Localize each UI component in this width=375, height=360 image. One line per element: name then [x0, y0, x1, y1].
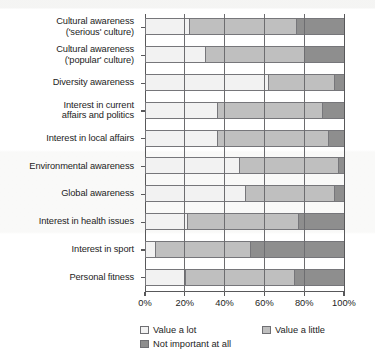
legend-item[interactable]: Not important at all — [140, 339, 231, 349]
bar-segment[interactable] — [239, 157, 340, 174]
gridline-60 — [264, 14, 265, 292]
bar-segment[interactable] — [145, 18, 190, 35]
bar-segment[interactable] — [322, 102, 345, 119]
x-axis-label-80: 80% — [284, 298, 324, 308]
bar-segment[interactable] — [185, 269, 295, 286]
x-axis-tick-100 — [343, 292, 344, 296]
bar-row[interactable] — [145, 185, 344, 202]
legend-label: Value a lot — [153, 325, 196, 335]
y-axis-label: Personal fitness — [69, 272, 134, 283]
y-axis-label: Interest in health issues — [39, 216, 134, 227]
y-axis-label: Interest in local affairs — [46, 133, 134, 144]
gridline-80 — [304, 14, 305, 292]
bar-segment[interactable] — [145, 130, 218, 147]
bar-segment[interactable] — [155, 241, 252, 258]
bar-segment[interactable] — [145, 102, 218, 119]
gridline-100 — [344, 14, 345, 292]
legend-item[interactable]: Value a lot — [140, 325, 196, 335]
y-axis-label-line: Interest in current — [62, 100, 134, 111]
bar-segment[interactable] — [245, 185, 336, 202]
y-axis-label: Interest in sport — [72, 244, 134, 255]
bar-segment[interactable] — [145, 185, 246, 202]
x-axis-label-40: 40% — [205, 298, 245, 308]
x-axis-label-20: 20% — [165, 298, 205, 308]
y-axis-label: Interest in currentaffairs and politics — [62, 100, 134, 121]
bar-segment[interactable] — [145, 46, 206, 63]
bar-row[interactable] — [145, 46, 344, 63]
legend-swatch-icon — [140, 340, 149, 348]
bar-segment[interactable] — [217, 130, 329, 147]
bar-row[interactable] — [145, 241, 344, 258]
plot-wrapper — [145, 14, 344, 292]
bar-segment[interactable] — [145, 74, 269, 91]
x-axis-label-60: 60% — [244, 298, 284, 308]
bar-segment[interactable] — [205, 46, 306, 63]
y-axis-label: Environmental awareness — [29, 161, 134, 172]
x-axis-tick-20 — [184, 292, 185, 296]
bar-segment[interactable] — [145, 213, 188, 230]
y-axis-label-line: Environmental awareness — [29, 161, 134, 172]
bar-row[interactable] — [145, 157, 344, 174]
y-axis-label-line: ('popular' culture) — [56, 55, 134, 66]
bar-segment[interactable] — [217, 102, 323, 119]
legend-swatch-icon — [262, 326, 271, 334]
bar-segment[interactable] — [268, 74, 335, 91]
bar-segment[interactable] — [189, 18, 297, 35]
x-axis-tick-60 — [264, 292, 265, 296]
gridline-20 — [184, 14, 185, 292]
bar-row[interactable] — [145, 269, 344, 286]
legend-label: Value a little — [275, 325, 325, 335]
y-axis-label-line: Cultural awareness — [56, 44, 134, 55]
x-axis-label-100: 100% — [324, 298, 364, 308]
bar-row[interactable] — [145, 74, 344, 91]
bar-row[interactable] — [145, 18, 344, 35]
x-axis-tick-80 — [304, 292, 305, 296]
y-axis-label: Diversity awareness — [53, 77, 134, 88]
bar-series-container — [145, 14, 344, 292]
y-axis-label-line: Personal fitness — [69, 272, 134, 283]
y-axis-label-line: Global awareness — [61, 188, 134, 199]
y-axis-label-line: Cultural awareness — [56, 16, 134, 27]
bar-segment[interactable] — [187, 213, 299, 230]
bar-segment[interactable] — [328, 130, 345, 147]
bar-segment[interactable] — [145, 269, 186, 286]
x-axis-label-0: 0% — [125, 298, 165, 308]
bar-segment[interactable] — [294, 269, 345, 286]
y-axis-label-line: Interest in health issues — [39, 216, 134, 227]
chart-legend: Value a lotValue a littleNot important a… — [140, 325, 375, 357]
stacked-bar-chart: Cultural awareness('serious' culture)Cul… — [0, 0, 375, 360]
bar-segment[interactable] — [304, 46, 345, 63]
x-axis-tick-0 — [144, 292, 145, 296]
y-axis-label: Cultural awareness('serious' culture) — [56, 16, 134, 37]
x-axis-tick-40 — [224, 292, 225, 296]
y-axis-label-line: Interest in local affairs — [46, 133, 134, 144]
y-axis-label: Cultural awareness('popular' culture) — [56, 44, 134, 65]
y-axis-label: Global awareness — [61, 188, 134, 199]
bar-row[interactable] — [145, 102, 344, 119]
legend-label: Not important at all — [153, 339, 231, 349]
y-axis-label-line: Diversity awareness — [53, 77, 134, 88]
y-axis-label-line: Interest in sport — [72, 244, 134, 255]
y-axis-label-line: affairs and politics — [62, 110, 134, 121]
y-axis-label-line: ('serious' culture) — [56, 27, 134, 38]
bar-row[interactable] — [145, 213, 344, 230]
y-axis-labels: Cultural awareness('serious' culture)Cul… — [0, 14, 140, 292]
bar-row[interactable] — [145, 130, 344, 147]
bar-segment[interactable] — [298, 213, 345, 230]
legend-swatch-icon — [140, 326, 149, 334]
bar-segment[interactable] — [145, 157, 240, 174]
legend-item[interactable]: Value a little — [262, 325, 325, 335]
gridline-40 — [224, 14, 225, 292]
